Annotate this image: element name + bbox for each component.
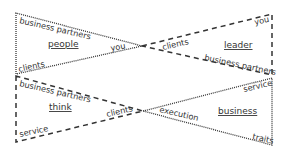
center-label-leader: leader bbox=[224, 40, 253, 50]
center-label-think: think bbox=[49, 102, 72, 112]
bowtie-diagram: business partners people you clients cli… bbox=[0, 0, 288, 151]
label-clients-tr: clients bbox=[161, 36, 189, 52]
label-business-partners-tr: business partners bbox=[204, 52, 277, 77]
label-service-br: service bbox=[242, 78, 273, 94]
center-label-business: business bbox=[218, 106, 258, 116]
label-service-bl: service bbox=[18, 123, 49, 139]
label-business-partners-tl: business partners bbox=[19, 15, 92, 41]
label-traits-br: traits bbox=[252, 131, 275, 146]
label-you-tr: you bbox=[253, 14, 270, 27]
center-label-people: people bbox=[48, 39, 79, 49]
label-you-tl: you bbox=[110, 41, 127, 53]
label-business-partners-bl: business partners bbox=[19, 78, 92, 104]
label-clients-tl: clients bbox=[17, 59, 45, 74]
